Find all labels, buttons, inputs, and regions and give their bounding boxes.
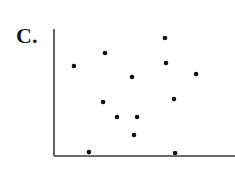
data-point <box>132 133 137 138</box>
data-point <box>130 75 135 80</box>
data-point <box>115 115 120 120</box>
data-point <box>164 61 169 66</box>
data-points <box>72 36 199 156</box>
data-point <box>72 64 77 69</box>
data-point <box>194 72 199 77</box>
data-point <box>87 150 92 155</box>
data-point <box>101 100 106 105</box>
data-point <box>163 36 168 41</box>
data-point <box>103 51 108 56</box>
data-point <box>172 97 177 102</box>
scatter-plot <box>0 0 235 169</box>
data-point <box>173 151 178 156</box>
data-point <box>135 115 140 120</box>
